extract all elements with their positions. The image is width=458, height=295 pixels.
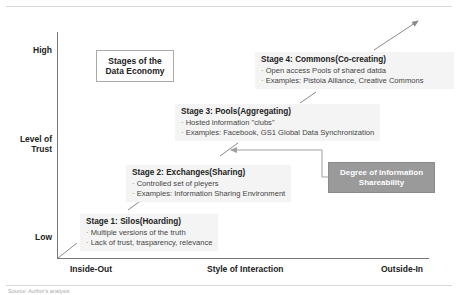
- stage-4-box: Stage 4: Commons(Co-creating) Open acces…: [255, 52, 454, 89]
- stage-bullet: Examples: Facebook, GS1 Global Data Sync…: [181, 128, 374, 138]
- y-axis: [57, 32, 58, 258]
- stage-bullet: Controlled set of pleyers: [132, 179, 285, 189]
- stage-1-box: Stage 1: Silos(Hoarding) Multiple versio…: [80, 214, 218, 251]
- callout-text: Degree of Information Shareability: [337, 168, 427, 188]
- source-caption: Source: Author's analysis: [8, 288, 70, 294]
- x-axis-right-label: Outside-In: [381, 264, 423, 274]
- y-axis-high-label: High: [2, 46, 52, 56]
- stage-bullet: Examples: Pistoia Alliance, Creative Com…: [261, 76, 424, 86]
- bottom-divider: [6, 285, 452, 286]
- x-axis: [57, 258, 429, 259]
- y-axis-title: Level of Trust: [2, 135, 52, 155]
- diagram-title: Stages of the Data Economy: [103, 56, 167, 76]
- stage-bullet: Multiple versions of the truth: [86, 228, 212, 238]
- diagonal-arrow-overlay: [0, 0, 458, 295]
- stage-bullet: Lack of trust, trasparency, relevance: [86, 238, 212, 248]
- information-shareability-callout: Degree of Information Shareability: [328, 162, 435, 193]
- stage-title: Stage 4: Commons(Co-creating): [261, 55, 424, 64]
- stage-bullet: Hosted information "clubs": [181, 118, 374, 128]
- stage-title: Stage 3: Pools(Aggregating): [181, 107, 374, 116]
- x-axis-left-label: Inside-Out: [70, 264, 112, 274]
- stage-title: Stage 2: Exchanges(Sharing): [132, 168, 285, 177]
- y-axis-low-label: Low: [2, 233, 52, 243]
- x-axis-title: Style of Interaction: [207, 264, 284, 274]
- stage-bullet: Examples: Information Sharing Environmen…: [132, 189, 285, 199]
- stage-bullet: Open access Pools of shared datda: [261, 66, 424, 76]
- diagram-title-box: Stages of the Data Economy: [96, 50, 174, 82]
- stage-title: Stage 1: Silos(Hoarding): [86, 217, 212, 226]
- stage-3-box: Stage 3: Pools(Aggregating) Hosted infor…: [175, 104, 380, 141]
- stage-2-box: Stage 2: Exchanges(Sharing) Controlled s…: [126, 165, 291, 202]
